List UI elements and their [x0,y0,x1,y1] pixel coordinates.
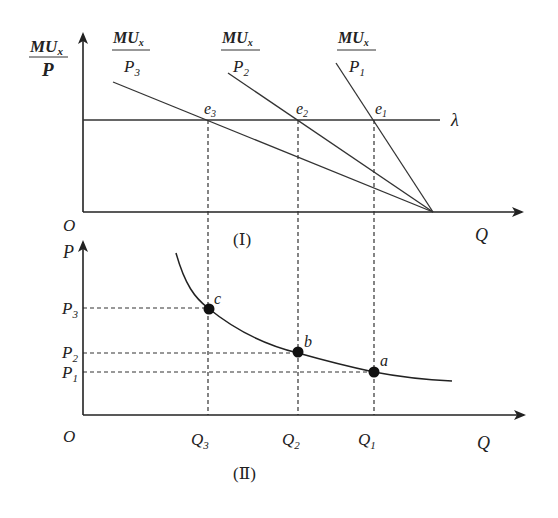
top-origin-label: O [63,216,75,235]
point-b [293,347,304,358]
tick-q2: Q2 [282,430,300,451]
tick-p2: P2 [61,343,78,364]
point-e1-label: e1 [375,100,387,119]
curve-label-p2: MUx P2 [221,29,260,78]
top-y-axis-label: MUx P [29,37,68,80]
svg-text:P1: P1 [348,57,365,78]
point-a-label: a [380,352,388,369]
svg-text:P: P [41,59,54,80]
diagram-canvas: MUx P λ MUx P3 MUx P2 MUx P1 e3 e2 [0,0,558,518]
svg-text:MUx: MUx [112,29,144,48]
panel-top: MUx P λ MUx P3 MUx P2 MUx P1 e3 e2 [29,29,522,249]
curve-label-p1: MUx P1 [337,29,376,78]
tick-p3: P3 [61,299,78,320]
point-c [204,304,215,315]
point-a [369,367,380,378]
lambda-label: λ [450,110,459,130]
top-panel-caption: (Ⅰ) [233,230,251,249]
top-x-axis-label: Q [475,225,488,245]
point-b-label: b [304,333,312,350]
bottom-y-axis-label: P [62,242,74,262]
curve-label-p3: MUx P3 [112,29,150,78]
bottom-x-axis-label: Q [477,433,490,453]
tick-q3: Q3 [191,430,209,451]
bottom-panel-caption: (Ⅱ) [233,464,256,483]
demand-derivation-diagram: MUx P λ MUx P3 MUx P2 MUx P1 e3 e2 [0,0,558,518]
mu-p3-line [113,82,433,212]
dashed-guides [83,120,374,415]
svg-text:MUx: MUx [337,29,369,48]
tick-p1: P1 [61,363,78,384]
svg-text:P3: P3 [123,57,140,78]
point-e3-label: e3 [204,100,216,119]
demand-curve [176,253,452,381]
mu-p2-line [228,73,433,212]
svg-text:MUx: MUx [29,37,63,57]
panel-bottom: c b a P P3 P2 P1 Q3 Q2 Q1 O Q (Ⅱ) [61,242,524,483]
mu-p1-line [336,63,433,212]
svg-text:MUx: MUx [221,29,253,48]
point-e2-label: e2 [296,100,308,119]
tick-q1: Q1 [358,430,376,451]
svg-text:P2: P2 [232,57,249,78]
bottom-origin-label: O [63,427,75,446]
point-c-label: c [214,290,221,307]
